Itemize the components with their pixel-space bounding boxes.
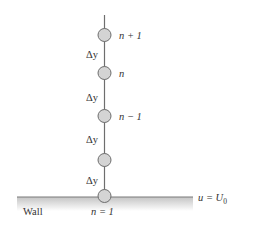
- delta-y-label: Δy: [86, 134, 99, 145]
- delta-y-label: Δy: [86, 92, 99, 103]
- node-1: [98, 190, 111, 203]
- boundary-condition-label: u = U0: [198, 192, 227, 206]
- delta-y-label: Δy: [86, 49, 99, 60]
- node-2: [98, 154, 111, 167]
- wall-label: Wall: [23, 206, 43, 217]
- node-label-n-plus-1: n + 1: [119, 30, 142, 41]
- node-label-n-equals-1: n = 1: [91, 206, 114, 217]
- boundary-condition-main: u = U: [198, 192, 225, 203]
- node-n-minus-1: [98, 110, 111, 123]
- node-label-n-minus-1: n − 1: [119, 111, 142, 122]
- node-label-n: n: [119, 68, 124, 79]
- node-n-plus-1: [98, 29, 111, 42]
- diagram-canvas: n + 1 n n − 1 n = 1 Δy Δy Δy Δy Wall u =…: [0, 0, 253, 231]
- delta-y-label: Δy: [86, 175, 99, 186]
- node-n: [98, 67, 111, 80]
- boundary-condition-subscript: 0: [223, 197, 227, 206]
